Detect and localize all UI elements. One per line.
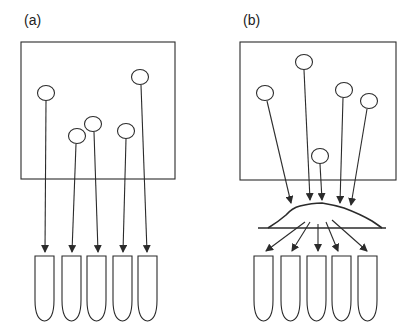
panel-a-tubes [35, 256, 157, 321]
panel-b-tubes [254, 256, 377, 321]
panel-b [240, 42, 396, 321]
panel-a [21, 42, 175, 321]
arrow [45, 101, 46, 252]
particle [85, 117, 102, 132]
tube [138, 256, 157, 321]
arrow [332, 220, 367, 251]
tube [281, 256, 300, 321]
diagram-canvas [0, 0, 412, 333]
tube [332, 256, 351, 321]
panel-b-box [240, 42, 396, 180]
tube [113, 256, 132, 321]
particle [336, 83, 353, 98]
tube [358, 256, 377, 321]
panel-b-particles [257, 55, 378, 164]
panel-a-arrows [45, 85, 147, 252]
mound [268, 203, 382, 228]
panel-a-box [21, 42, 175, 179]
tube [62, 256, 81, 321]
panel-a-particles [38, 70, 149, 144]
particle [132, 70, 149, 85]
arrow [94, 132, 98, 252]
particle [257, 86, 274, 101]
panel-b-arrows-out [266, 220, 367, 251]
particle [69, 129, 86, 144]
panel-b-mound [258, 203, 386, 228]
arrow [72, 144, 76, 252]
tube [307, 256, 326, 321]
arrow [326, 222, 338, 251]
arrow [141, 85, 147, 252]
particle [38, 86, 55, 101]
arrow [351, 109, 367, 205]
particle [312, 149, 329, 164]
particle [296, 55, 313, 70]
particle [118, 124, 135, 139]
arrow [123, 139, 126, 252]
tube [87, 256, 106, 321]
arrow [292, 222, 310, 251]
particle [361, 94, 378, 109]
arrow [340, 98, 343, 203]
tube [35, 256, 54, 321]
tube [254, 256, 273, 321]
arrow [320, 164, 322, 200]
arrow [267, 101, 291, 203]
